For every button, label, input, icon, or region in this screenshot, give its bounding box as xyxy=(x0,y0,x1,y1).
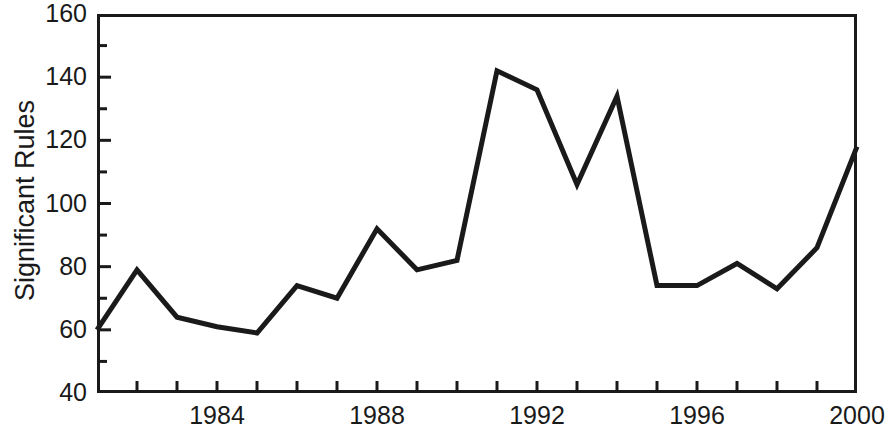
y-tick-label: 40 xyxy=(27,380,87,405)
y-tick-label: 100 xyxy=(27,191,87,216)
plot-area xyxy=(97,14,857,393)
x-tick-label: 2000 xyxy=(812,403,886,428)
y-tick-label: 140 xyxy=(27,64,87,89)
x-tick-label: 1984 xyxy=(172,403,262,428)
y-tick-label: 60 xyxy=(27,317,87,342)
x-tick-label: 1992 xyxy=(492,403,582,428)
y-tick-label: 120 xyxy=(27,127,87,152)
x-tick-label: 1988 xyxy=(332,403,422,428)
y-tick-label: 160 xyxy=(27,1,87,26)
chart-figure: Significant Rules 160140120100806040 198… xyxy=(0,0,886,434)
y-tick-label: 80 xyxy=(27,254,87,279)
x-tick-label: 1996 xyxy=(652,403,742,428)
